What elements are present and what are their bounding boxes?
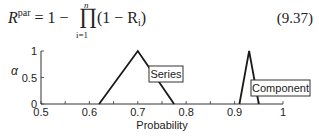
y-tick-label: 0 bbox=[31, 98, 37, 110]
y-tick-label: 1 bbox=[31, 45, 37, 57]
annotation-component: Component bbox=[252, 82, 309, 94]
x-axis-label: Probability bbox=[136, 119, 188, 131]
membership-chart: 0.50.60.70.80.9100.51ProbabilityαSeriesC… bbox=[0, 0, 319, 140]
x-tick-label: 0.8 bbox=[179, 106, 194, 118]
y-tick-label: 0.5 bbox=[22, 72, 37, 84]
y-axis-label: α bbox=[11, 64, 19, 78]
x-tick-label: 0.7 bbox=[130, 106, 145, 118]
x-tick-label: 1 bbox=[280, 106, 286, 118]
x-tick-label: 0.6 bbox=[82, 106, 97, 118]
chart-labels: 0.50.60.70.80.9100.51ProbabilityαSeriesC… bbox=[11, 45, 310, 131]
x-tick-label: 0.9 bbox=[227, 106, 242, 118]
annotation-series: Series bbox=[150, 68, 182, 80]
